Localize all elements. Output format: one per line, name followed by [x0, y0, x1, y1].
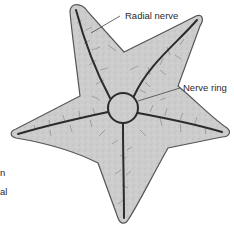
starfish-diagram	[0, 0, 234, 231]
radial-nerve-bottom	[123, 123, 124, 218]
nerve-ring-label: Nerve ring	[183, 82, 227, 93]
cut-off-text-1: n	[0, 167, 5, 178]
cut-off-text-2: al	[0, 186, 7, 197]
radial-nerve-label: Radial nerve	[125, 10, 178, 21]
starfish-body	[11, 5, 229, 224]
